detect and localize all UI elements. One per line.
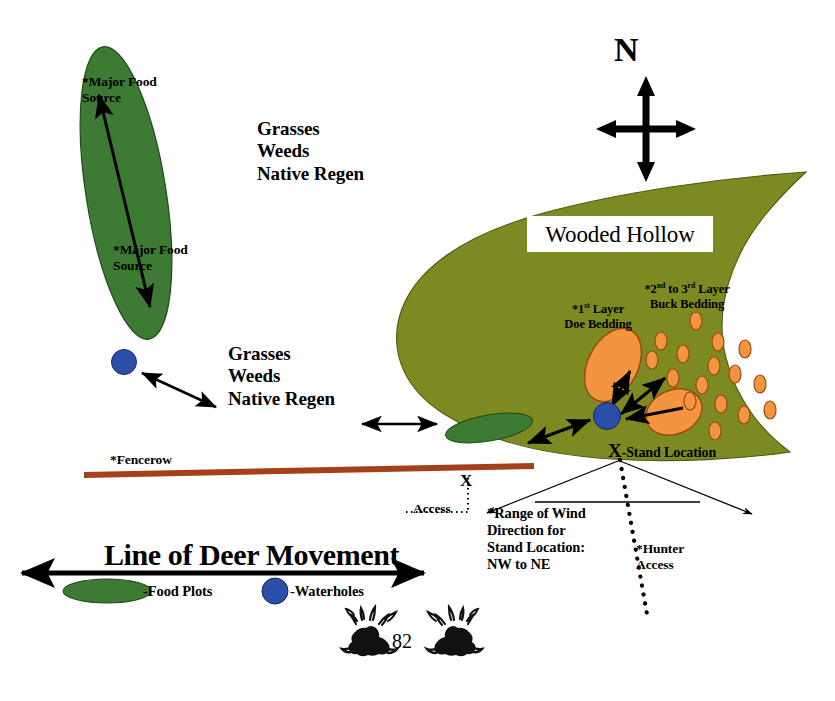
access-marker-x: X	[460, 471, 472, 491]
compass-rose-icon	[596, 76, 696, 182]
buck-bedding-ordinal-2: rd	[688, 281, 696, 290]
buck-bedding-ordinal-1: nd	[657, 281, 665, 290]
page-number: 82	[392, 630, 412, 654]
legend-waterholes-label: -Waterholes	[290, 583, 364, 600]
legend-waterhole-swatch	[262, 578, 288, 604]
legend-food-plot-swatch	[63, 579, 151, 603]
diagram-page: *Major Food Source *Major Food Source Gr…	[0, 0, 835, 701]
deer-silhouette-left-icon	[342, 607, 397, 656]
arrow-waterhole-to-cover	[142, 373, 216, 407]
buck-bedding-middle: to 3	[665, 282, 687, 296]
diagram-title: Line of Deer Movement	[74, 537, 429, 572]
waterhole-stand	[594, 403, 621, 430]
deer-silhouette-right-icon	[427, 607, 482, 656]
access-label: Access	[413, 501, 451, 517]
hunter-access-label: *Hunter Access	[636, 541, 706, 573]
stand-location-text: -Stand Location	[622, 445, 717, 460]
fencerow-label: *Fencerow	[110, 452, 172, 468]
stand-marker-x: X	[608, 440, 622, 461]
wind-range-arrow-right	[620, 461, 752, 514]
legend-food-plots-label: -Food Plots	[143, 583, 212, 600]
cover-type-middle-label: Grasses Weeds Native Regen	[228, 343, 403, 410]
major-food-source-bottom-label: *Major Food Source	[113, 242, 223, 274]
wooded-hollow-label: Wooded Hollow	[527, 216, 713, 252]
compass-north-label: N	[614, 30, 638, 70]
waterhole-west	[112, 350, 137, 375]
major-food-source-top-label: *Major Food Source	[82, 74, 192, 106]
buck-bedding-prefix: *2	[644, 282, 656, 296]
stand-location-label: X-Stand Location	[608, 440, 716, 462]
buck-bedding-label: *2nd to 3rd Layer Buck Bedding	[628, 282, 746, 312]
wind-direction-note: *Range of Wind Direction for Stand Locat…	[487, 505, 637, 573]
cover-type-top-label: Grasses Weeds Native Regen	[257, 118, 422, 185]
doe-bedding-prefix: *1	[572, 302, 584, 316]
